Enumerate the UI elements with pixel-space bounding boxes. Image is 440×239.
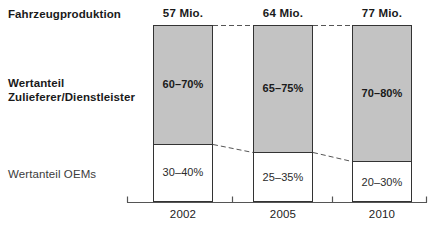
bar-label-supplier-2010: 70–80%: [353, 87, 411, 99]
column-top-label-2005: 64 Mio.: [253, 7, 313, 19]
bar-segment-supplier-2010[interactable]: 70–80%: [352, 25, 412, 162]
bar-segment-oem-2010[interactable]: 20–30%: [352, 161, 412, 202]
bar-segment-supplier-2002[interactable]: 60–70%: [153, 25, 213, 145]
bar-segment-oem-2002[interactable]: 30–40%: [153, 144, 213, 202]
row-label-fahrzeugproduktion: Fahrzeugproduktion: [8, 8, 121, 21]
bar-label-oem-2005: 25–35%: [254, 171, 312, 183]
chart-container: Fahrzeugproduktion Wertanteil Zulieferer…: [0, 0, 440, 239]
bar-label-oem-2002: 30–40%: [154, 166, 212, 178]
bar-group-2010: 70–80% 20–30%: [352, 25, 412, 202]
dashed-split-connector-2: [313, 153, 352, 162]
x-tick-label-2005: 2005: [250, 208, 316, 220]
bar-label-supplier-2005: 65–75%: [254, 82, 312, 94]
bar-group-2005: 65–75% 25–35%: [253, 25, 313, 202]
column-top-label-2002: 57 Mio.: [153, 7, 213, 19]
row-label-wertanteil-oems: Wertanteil OEMs: [8, 168, 96, 181]
bar-label-oem-2010: 20–30%: [353, 176, 411, 188]
row-label-wertanteil-zulieferer: Wertanteil Zulieferer/Dienstleister: [8, 76, 135, 104]
column-top-label-2010: 77 Mio.: [352, 7, 412, 19]
x-tick-label-2010: 2010: [349, 208, 415, 220]
bar-group-2002: 60–70% 30–40%: [153, 25, 213, 202]
bar-segment-supplier-2005[interactable]: 65–75%: [253, 25, 313, 153]
x-tick-label-2002: 2002: [150, 208, 216, 220]
bar-segment-oem-2005[interactable]: 25–35%: [253, 152, 313, 202]
dashed-split-connector-1: [213, 145, 253, 153]
bar-label-supplier-2002: 60–70%: [154, 78, 212, 90]
